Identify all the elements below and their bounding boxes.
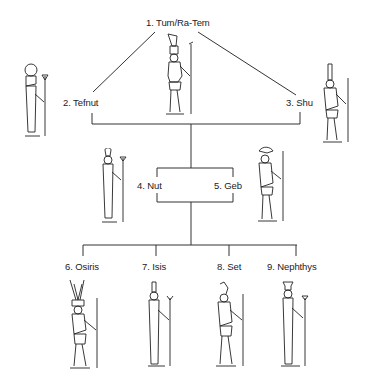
tum-figure-icon [160,32,200,118]
node-label-osiris: 6. Osiris [65,261,99,272]
set-figure-icon [210,280,250,372]
isis-figure-icon [143,280,177,372]
shu-figure-icon [318,62,354,148]
node-label-geb: 5. Geb [214,180,242,191]
node-label-tum: 1. Tum/Ra-Tem [146,17,210,28]
nut-figure-icon [97,148,131,228]
node-label-tefnut: 2. Tefnut [63,97,98,108]
genealogy-diagram: 1. Tum/Ra-Tem 2. Tefnut 3. Shu 4. Nut 5.… [0,0,373,382]
node-label-nut: 4. Nut [137,180,162,191]
node-label-nephthys: 9. Nephthys [267,261,317,272]
node-label-shu: 3. Shu [286,97,313,108]
tefnut-figure-icon [20,62,56,142]
geb-figure-icon [253,143,289,229]
node-label-set: 8. Set [217,261,241,272]
osiris-figure-icon [64,278,104,374]
node-label-isis: 7. Isis [142,261,166,272]
nephthys-figure-icon [276,280,312,372]
